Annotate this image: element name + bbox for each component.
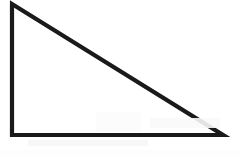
right-triangle-diagram [0, 0, 240, 157]
figure-canvas [0, 0, 240, 157]
right-triangle-shape [12, 4, 223, 135]
